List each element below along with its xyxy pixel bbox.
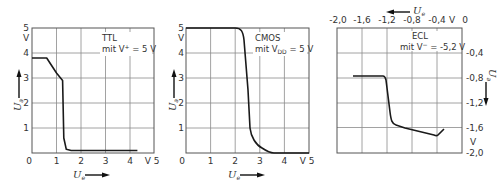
svg-text:Ua: Ua — [167, 99, 179, 111]
cmos-ytick-5: 5 — [178, 23, 184, 33]
ttl-transfer-curve — [32, 58, 137, 151]
ttl-yunit: V — [23, 33, 30, 43]
ecl-ylabel: Ua — [486, 69, 498, 81]
ecl-ytick-m1.2: -1,2 — [466, 98, 484, 108]
ecl-xtick-m2.0: -2,0 — [329, 15, 347, 25]
cmos-ytick-3: 3 — [178, 73, 184, 83]
ecl-xtick-m0.4: -0,4 — [428, 15, 446, 25]
cmos-yunit: V — [178, 33, 185, 43]
cmos-ytick-1: 1 — [178, 123, 184, 133]
ttl-y-arrow-icon — [17, 69, 22, 98]
ttl-xtick-2: 2 — [78, 156, 84, 166]
ttl-annotation-title: TTL — [101, 33, 117, 43]
ttl-x-arrow-icon — [85, 173, 110, 178]
ttl-annotation-supply: mit V+ = 5 V — [102, 43, 156, 54]
cmos-chart: CMOS mit VDD = 5 V 5 V 4 3 2 1 0 1 2 3 4… — [167, 23, 314, 181]
ecl-ytick-m0.4: -0,4 — [466, 48, 484, 58]
cmos-xtick-3: 3 — [257, 156, 263, 166]
ecl-ytick-m1.6: -1,6 — [466, 123, 484, 133]
ecl-xlabel: Ue — [413, 5, 425, 17]
cmos-x-arrow-icon — [240, 173, 265, 178]
ttl-xtick-3: 3 — [103, 156, 109, 166]
ecl-x-arrow-icon — [386, 10, 410, 15]
ttl-xtick-1: 1 — [54, 156, 60, 166]
ecl-xunit: V — [449, 15, 456, 25]
ecl-ytick-m2.0: -2,0 — [466, 148, 484, 158]
ttl-ytick-3: 3 — [23, 73, 29, 83]
cmos-ylabel: Ua — [167, 99, 179, 111]
ecl-xtick-m1.6: -1,6 — [353, 15, 371, 25]
cmos-xtick-0: 0 — [179, 156, 185, 166]
ecl-yunit: V — [470, 137, 477, 147]
ttl-ylabel: Ua — [12, 99, 24, 111]
ttl-xlabel: Ue — [73, 169, 85, 181]
ttl-ytick-4: 4 — [23, 48, 29, 58]
ecl-xtick-m0.8: -0,8 — [403, 15, 421, 25]
ecl-annotation-supply: mit V− = -5,2 V — [400, 41, 465, 52]
cmos-xtick-1: 1 — [208, 156, 214, 166]
cmos-xtick-4: 4 — [282, 156, 288, 166]
ecl-chart: ECL mit V− = -5,2 V -2,0 -1,6 -1,2 -0,8 … — [329, 5, 498, 158]
characteristics-figure: TTL mit V+ = 5 V 5 V 4 3 2 1 0 1 2 3 4 V… — [0, 0, 502, 184]
svg-text:Ua: Ua — [12, 99, 24, 111]
ecl-xtick-0: 0 — [462, 15, 468, 25]
cmos-ytick-4: 4 — [178, 48, 184, 58]
cmos-xlabel: Ue — [228, 169, 240, 181]
ecl-xtick-m1.2: -1,2 — [378, 15, 396, 25]
ttl-ytick-5: 5 — [23, 23, 29, 33]
cmos-y-arrow-icon — [172, 69, 177, 98]
cmos-xtick-2: 2 — [232, 156, 238, 166]
ttl-ytick-1: 1 — [23, 123, 29, 133]
svg-text:Ua: Ua — [486, 69, 498, 81]
ecl-y-arrow-icon — [484, 82, 489, 106]
ecl-ytick-m0.8: -0,8 — [466, 73, 484, 83]
ttl-chart: TTL mit V+ = 5 V 5 V 4 3 2 1 0 1 2 3 4 V… — [12, 23, 159, 181]
cmos-annotation-title: CMOS — [255, 33, 280, 43]
ttl-xtick-0: 0 — [26, 156, 32, 166]
ttl-xtick-5: V 5 — [145, 156, 160, 166]
ecl-transfer-curve — [353, 76, 444, 136]
ecl-annotation-title: ECL — [412, 31, 428, 41]
ttl-xtick-4: 4 — [127, 156, 133, 166]
cmos-xtick-5: V 5 — [300, 156, 315, 166]
